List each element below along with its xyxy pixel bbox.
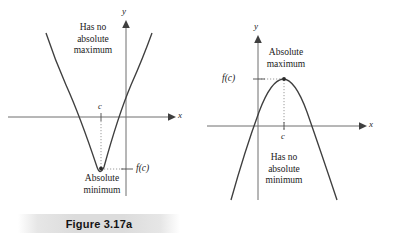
caption-label-a: Figure 3.17a [66,218,133,230]
annotation-absolute-maximum: Absolute maximum [255,47,317,70]
figure-panel-b: y x Absolute maximum Has no absolute min… [197,0,394,239]
x-axis-label-a: x [178,110,182,120]
figure-panel-a: y x Has no absolute maximum Absolute min… [0,0,197,239]
x-axis-a [8,113,176,121]
annotation-line: absolute [62,34,124,46]
annotation-no-min: Has no absolute minimum [253,152,315,187]
annotation-line: maximum [255,59,317,71]
annotation-line: Absolute [70,173,134,185]
fc-label-a: f(c) [136,163,149,173]
figure-canvas: y x Has no absolute maximum Absolute min… [0,0,394,239]
annotation-line: Has no [62,22,124,34]
annotation-line: minimum [70,185,134,197]
x-axis-label-b: x [369,119,373,129]
c-label-a: c [98,101,102,111]
annotation-absolute-minimum: Absolute minimum [70,173,134,196]
c-label-b: c [281,131,285,141]
y-axis-label-a: y [122,6,126,16]
caption-bar-a: Figure 3.17a [18,214,180,233]
annotation-line: minimum [253,175,315,187]
annotation-line: Has no [253,152,315,164]
annotation-line: maximum [62,45,124,57]
vertex-marker-a [99,167,103,171]
annotation-line: Absolute [255,47,317,59]
fc-label-b: f(c) [222,73,235,83]
vertex-marker-b [282,77,286,81]
y-axis-label-b: y [254,21,258,31]
annotation-line: absolute [253,164,315,176]
x-axis-b [207,122,367,130]
annotation-no-max: Has no absolute maximum [62,22,124,57]
